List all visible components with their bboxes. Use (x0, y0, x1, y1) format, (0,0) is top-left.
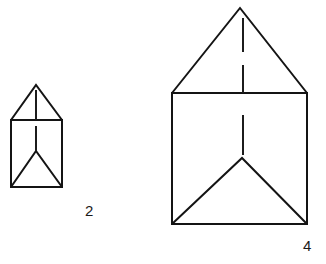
figure-canvas (0, 0, 326, 264)
large-house-roof (172, 8, 307, 93)
small-house-label: 2 (85, 203, 93, 218)
large-house-label: 4 (303, 238, 311, 253)
large-house-figure (172, 8, 307, 224)
large-house-inner-chevron (172, 158, 307, 224)
small-house-figure (11, 85, 62, 187)
small-house-inner-chevron (11, 151, 62, 187)
